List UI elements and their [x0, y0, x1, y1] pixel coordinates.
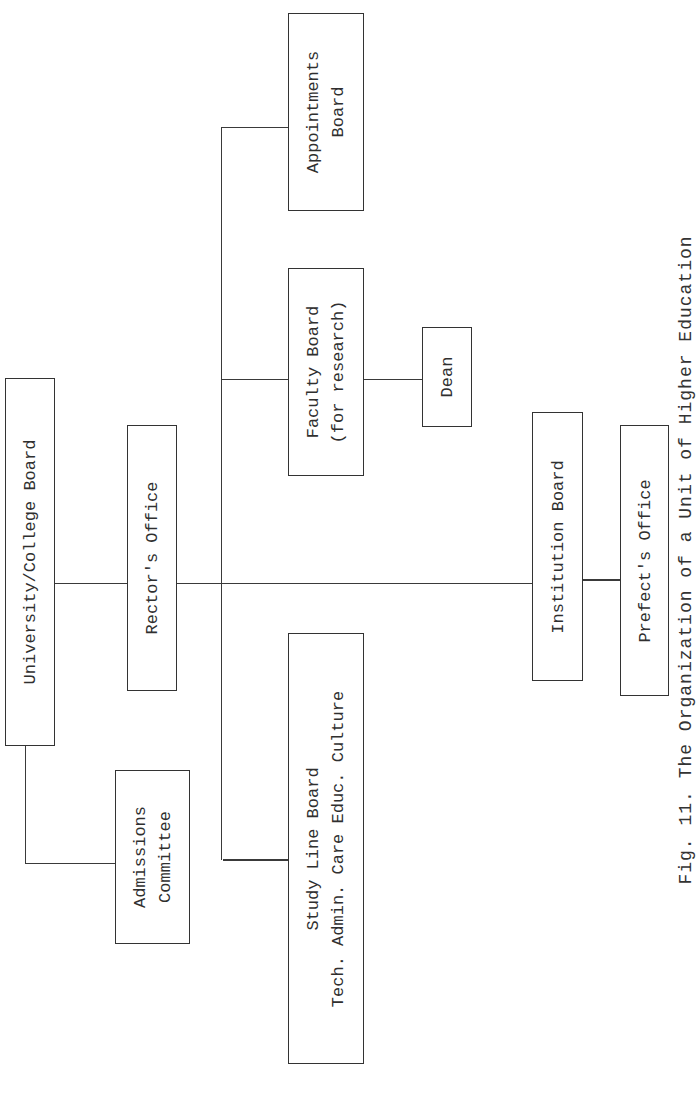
figure-caption: Fig. 11. The Organization of a Unit of H… — [676, 235, 696, 884]
node-label-line: Rector's Office — [140, 481, 165, 634]
connector-board-to-admissions-horizontal — [25, 863, 115, 864]
node-label-line: Study Line Board — [301, 690, 326, 1006]
node-label: Rector's Office — [140, 481, 165, 634]
connector-trunk — [221, 127, 222, 860]
connector-trunk-to-faculty — [221, 379, 288, 380]
node-label: Institution Board — [545, 460, 570, 633]
node-label-line: Dean — [435, 357, 460, 398]
node-label: University/College Board — [18, 440, 43, 685]
node-label-line: (for research) — [326, 301, 351, 444]
node-label-line: Prefect's Office — [632, 479, 657, 642]
node-label: Admissions Committee — [128, 806, 178, 908]
node-label-line: Tech. Admin. Care Educ. Culture — [326, 690, 351, 1006]
connector-faculty-to-dean — [364, 379, 422, 380]
node-label: Study Line Board Tech. Admin. Care Educ.… — [301, 690, 351, 1006]
node-label: Faculty Board (for research) — [301, 301, 351, 444]
node-appointments-board: Appointments Board — [288, 13, 364, 211]
node-label-line: Appointments — [301, 51, 326, 173]
node-label-line: Committee — [153, 806, 178, 908]
node-study-line-board: Study Line Board Tech. Admin. Care Educ.… — [288, 633, 364, 1064]
connector-board-to-admissions-vertical — [25, 745, 26, 863]
node-faculty-board: Faculty Board (for research) — [288, 268, 364, 476]
org-chart: University/College Board Rector's Office… — [0, 0, 700, 1094]
node-admissions-committee: Admissions Committee — [115, 770, 190, 944]
node-label-line: Board — [326, 51, 351, 173]
node-label-line: Institution Board — [545, 460, 570, 633]
connector-trunk-to-appointments — [221, 127, 288, 128]
node-label: Appointments Board — [301, 51, 351, 173]
node-label: Prefect's Office — [632, 479, 657, 642]
node-label-line: Faculty Board — [301, 301, 326, 444]
node-rectors-office: Rector's Office — [127, 425, 177, 691]
node-label: Dean — [435, 357, 460, 398]
connector-trunk-to-study-line — [223, 859, 288, 861]
node-label-line: University/College Board — [18, 440, 43, 685]
node-prefects-office: Prefect's Office — [620, 425, 669, 696]
connector-board-to-institution — [54, 583, 532, 584]
connector-institution-to-prefect — [583, 579, 620, 581]
node-label-line: Admissions — [128, 806, 153, 908]
node-institution-board: Institution Board — [532, 412, 583, 681]
node-dean: Dean — [422, 327, 472, 427]
node-university-college-board: University/College Board — [5, 378, 55, 746]
